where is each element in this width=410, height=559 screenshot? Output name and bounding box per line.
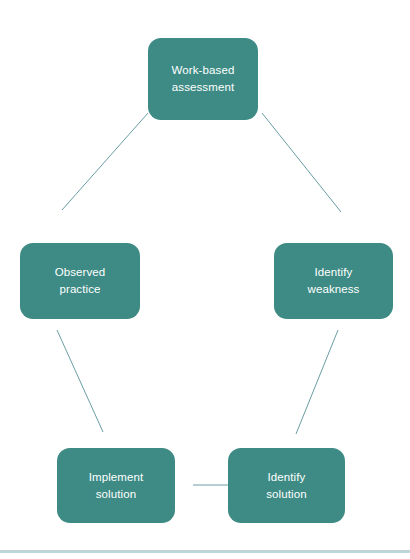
node-label-work-based-assessment: Work-based assessment — [172, 62, 235, 95]
diagram-canvas: Work-based assessment Observed practice … — [0, 0, 410, 559]
node-identify-solution[interactable]: Identify solution — [228, 448, 345, 523]
node-label-identify-solution: Identify solution — [266, 469, 306, 502]
connector-observed-practice-to-implement-solution — [57, 330, 103, 432]
node-label-identify-weakness: Identify weakness — [308, 264, 360, 297]
connector-assessment-to-observed-practice — [62, 113, 148, 210]
node-label-observed-practice: Observed practice — [55, 264, 106, 297]
node-observed-practice[interactable]: Observed practice — [20, 243, 140, 319]
connector-identify-weakness-to-identify-solution — [296, 330, 338, 434]
node-work-based-assessment[interactable]: Work-based assessment — [148, 38, 258, 120]
connector-assessment-to-identify-weakness — [262, 113, 341, 212]
node-implement-solution[interactable]: Implement solution — [57, 448, 175, 523]
node-label-implement-solution: Implement solution — [89, 469, 144, 502]
node-identify-weakness[interactable]: Identify weakness — [274, 243, 393, 319]
bottom-divider-rule — [0, 550, 410, 553]
